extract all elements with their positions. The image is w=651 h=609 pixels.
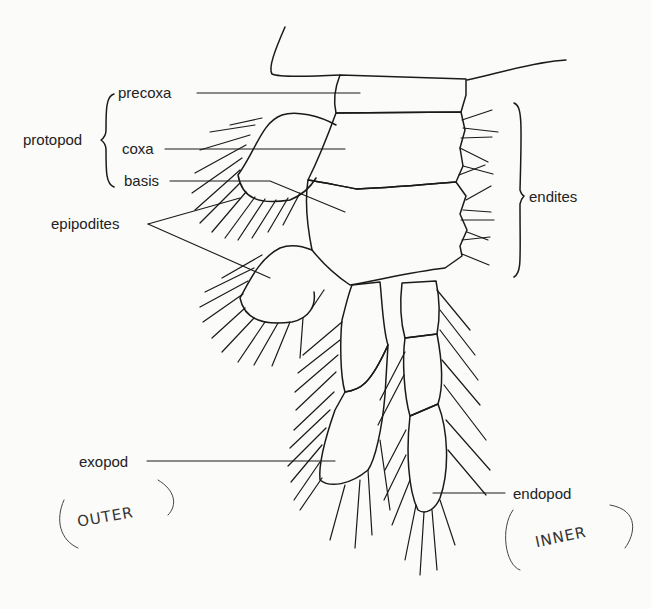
endopod-setae <box>378 290 490 575</box>
endopod-seg3 <box>408 404 447 512</box>
label-basis: basis <box>124 173 159 188</box>
lower-epipodite <box>240 246 314 323</box>
label-exopod: exopod <box>79 454 128 469</box>
basis-segment <box>306 180 467 285</box>
exopod-setae <box>288 322 390 548</box>
body-outline-right <box>467 60 566 80</box>
exopod-distal <box>320 345 388 484</box>
lower-epipodite-setae <box>200 255 324 366</box>
limb-diagram: precoxa protopod coxa basis epipodites e… <box>0 0 651 609</box>
label-epipodites: epipodites <box>51 216 119 231</box>
precoxa-segment <box>335 75 466 113</box>
upper-epipodite-setae <box>192 118 300 240</box>
protopod-bracket <box>101 94 114 187</box>
coxa-segment <box>308 112 465 189</box>
label-endites: endites <box>529 189 577 204</box>
label-protopod: protopod <box>23 132 82 147</box>
label-endopod: endopod <box>513 486 571 501</box>
exopod-proximal <box>341 282 388 392</box>
endopod-seg1 <box>401 281 439 338</box>
label-coxa: coxa <box>122 141 154 156</box>
endites-bracket <box>514 103 524 277</box>
label-precoxa: precoxa <box>118 85 171 100</box>
leader-lines <box>147 93 505 493</box>
body-outline <box>271 27 340 76</box>
endopod-seg2 <box>404 334 442 416</box>
